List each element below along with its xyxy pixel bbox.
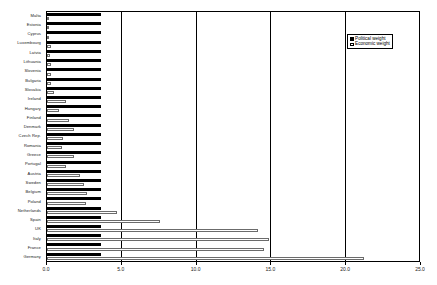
bar-economic-weight <box>47 119 69 122</box>
category-label: Romania <box>0 141 44 150</box>
bar-political-weight <box>47 225 101 228</box>
category-label: Lithuania <box>0 57 44 66</box>
bar-economic-weight <box>47 82 51 85</box>
bar-political-weight <box>47 133 101 136</box>
category-label: Czech Rep. <box>0 132 44 141</box>
x-axis-tick-label: 15.0 <box>266 266 276 272</box>
bar-political-weight <box>47 151 101 154</box>
bar-economic-weight <box>47 73 51 76</box>
bar-political-weight <box>47 243 101 246</box>
bar-economic-weight <box>47 45 51 48</box>
bar-economic-weight <box>47 165 66 168</box>
bar-row <box>47 187 419 196</box>
bar-row <box>47 252 419 261</box>
bar-economic-weight <box>47 220 160 223</box>
category-label: Germany <box>0 253 44 262</box>
category-label: Estonia <box>0 20 44 29</box>
filled-square-icon <box>350 37 354 41</box>
bar-political-weight <box>47 216 101 219</box>
bar-political-weight <box>47 31 101 34</box>
bar-political-weight <box>47 179 101 182</box>
bar-row <box>47 123 419 132</box>
category-label: Ireland <box>0 95 44 104</box>
bar-economic-weight <box>47 229 258 232</box>
category-label: Sweden <box>0 178 44 187</box>
bar-row <box>47 196 419 205</box>
bar-economic-weight <box>47 26 49 29</box>
x-axis-tick <box>270 262 271 265</box>
bar-political-weight <box>47 105 101 108</box>
category-label: Slovenia <box>0 67 44 76</box>
category-label: Spain <box>0 216 44 225</box>
bar-economic-weight <box>47 128 74 131</box>
bar-political-weight <box>47 170 101 173</box>
bar-economic-weight <box>47 183 84 186</box>
legend-item: Economic weight <box>350 42 390 47</box>
bar-row <box>47 132 419 141</box>
bar-row <box>47 12 419 21</box>
bar-political-weight <box>47 87 101 90</box>
bar-row <box>47 215 419 224</box>
bar-row <box>47 77 419 86</box>
bar-political-weight <box>47 142 101 145</box>
bar-row <box>47 86 419 95</box>
bar-political-weight <box>47 207 101 210</box>
bar-political-weight <box>47 234 101 237</box>
bar-row <box>47 169 419 178</box>
category-axis-labels: MaltaEstoniaCyprusLuxembourgLatviaLithua… <box>0 11 44 262</box>
open-square-icon <box>350 43 354 47</box>
bar-row <box>47 150 419 159</box>
chart-legend: Political weightEconomic weight <box>347 34 393 49</box>
x-axis-tick-label: 25.0 <box>415 266 425 272</box>
bar-political-weight <box>47 161 101 164</box>
bar-political-weight <box>47 13 101 16</box>
bar-political-weight <box>47 50 101 53</box>
bar-economic-weight <box>47 202 86 205</box>
bar-political-weight <box>47 78 101 81</box>
bar-row <box>47 67 419 76</box>
bar-row <box>47 21 419 30</box>
bar-political-weight <box>47 68 101 71</box>
category-label: Austria <box>0 169 44 178</box>
bar-economic-weight <box>47 211 117 214</box>
bar-economic-weight <box>47 146 62 149</box>
bar-political-weight <box>47 59 101 62</box>
bar-economic-weight <box>47 91 54 94</box>
bar-economic-weight <box>47 174 80 177</box>
bar-row <box>47 160 419 169</box>
category-label: Latvia <box>0 48 44 57</box>
bar-economic-weight <box>47 109 59 112</box>
bar-row <box>47 178 419 187</box>
bar-political-weight <box>47 114 101 117</box>
category-label: Finland <box>0 113 44 122</box>
category-label: Belgium <box>0 188 44 197</box>
category-label: Denmark <box>0 123 44 132</box>
bar-economic-weight <box>47 137 63 140</box>
bar-economic-weight <box>47 248 264 251</box>
x-axis-tick <box>121 262 122 265</box>
bar-economic-weight <box>47 155 74 158</box>
bar-political-weight <box>47 188 101 191</box>
category-label: Cyprus <box>0 30 44 39</box>
bar-row <box>47 233 419 242</box>
bar-row <box>47 104 419 113</box>
bar-row <box>47 95 419 104</box>
x-axis-tick-label: 20.0 <box>340 266 350 272</box>
bar-row <box>47 141 419 150</box>
bar-economic-weight <box>47 36 49 39</box>
bar-row <box>47 224 419 233</box>
bar-political-weight <box>47 253 101 256</box>
category-label: Italy <box>0 234 44 243</box>
bar-economic-weight <box>47 192 87 195</box>
bar-economic-weight <box>47 100 66 103</box>
bar-economic-weight <box>47 63 51 66</box>
bar-rows <box>47 12 419 261</box>
x-axis-tick <box>46 262 47 265</box>
category-label: Malta <box>0 11 44 20</box>
bar-political-weight <box>47 197 101 200</box>
x-axis-tick-label: 0.0 <box>43 266 50 272</box>
bar-row <box>47 113 419 122</box>
x-axis-tick <box>345 262 346 265</box>
bar-row <box>47 58 419 67</box>
bar-row <box>47 49 419 58</box>
